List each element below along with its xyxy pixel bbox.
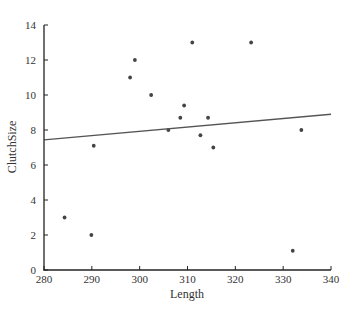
x-tick-label: 340 (323, 273, 340, 285)
data-point (182, 104, 186, 108)
data-point (291, 249, 295, 253)
x-axis-label: Length (170, 287, 204, 301)
data-point (63, 216, 67, 220)
scatter-chart: 02468101214280290300310320330340 Length … (0, 0, 359, 311)
x-tick-label: 320 (227, 273, 244, 285)
data-point (178, 116, 182, 120)
x-tick-label: 330 (275, 273, 292, 285)
data-point (133, 58, 137, 62)
axes: 02468101214280290300310320330340 (25, 19, 340, 285)
data-point (89, 233, 93, 237)
x-tick-label: 300 (131, 273, 148, 285)
data-point (149, 93, 153, 97)
data-point (211, 146, 215, 150)
data-point (190, 41, 194, 45)
y-tick-label: 2 (31, 229, 37, 241)
plot-area (44, 41, 331, 253)
data-point (92, 144, 96, 148)
data-point (299, 128, 303, 132)
data-point (199, 133, 203, 137)
y-tick-label: 6 (31, 159, 37, 171)
y-tick-label: 12 (25, 54, 36, 66)
y-tick-label: 10 (25, 89, 37, 101)
y-tick-label: 14 (25, 19, 37, 31)
y-tick-label: 4 (31, 194, 37, 206)
data-point (206, 116, 210, 120)
fitted-line (44, 114, 331, 140)
x-tick-label: 280 (36, 273, 53, 285)
x-tick-label: 290 (84, 273, 101, 285)
y-tick-label: 8 (31, 124, 37, 136)
data-point (128, 76, 132, 80)
data-point (249, 41, 253, 45)
y-axis-label: ClutchSize (5, 121, 19, 174)
x-tick-label: 310 (179, 273, 196, 285)
